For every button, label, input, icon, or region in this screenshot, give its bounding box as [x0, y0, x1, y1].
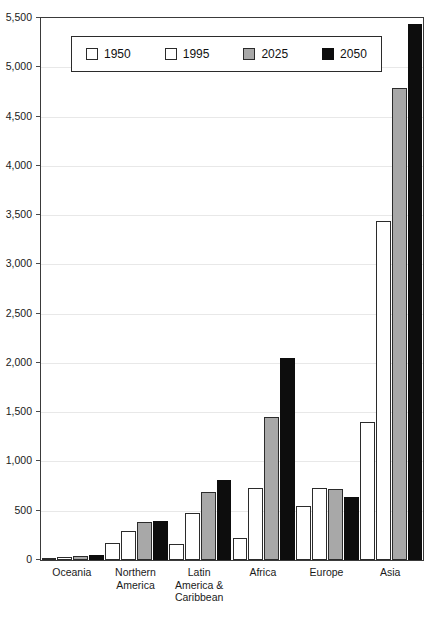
- bar-group: [296, 18, 360, 560]
- bar-group: [41, 18, 105, 560]
- x-tick-label: Asia: [358, 566, 422, 579]
- bar: [312, 488, 327, 560]
- bar: [264, 417, 279, 560]
- bar: [137, 522, 152, 560]
- y-tick-label: 5,500: [6, 12, 32, 22]
- y-axis: 5,5005,0004,5004,0003,5003,0002,5002,000…: [0, 0, 40, 623]
- bar: [89, 555, 104, 560]
- bar: [42, 558, 57, 560]
- y-tick-label: 3,500: [6, 209, 32, 219]
- legend-label: 2050: [340, 48, 367, 60]
- bars-layer: [41, 18, 423, 560]
- x-tick-label: Northern America: [104, 566, 168, 591]
- bar: [296, 506, 311, 560]
- bar: [360, 422, 375, 560]
- bar-group: [105, 18, 169, 560]
- legend-swatch-icon: [243, 48, 255, 60]
- y-tick-label: 0: [26, 554, 32, 564]
- bar-group: [168, 18, 232, 560]
- plot-area: [40, 17, 424, 561]
- bar: [344, 497, 359, 560]
- bar: [408, 24, 423, 560]
- y-tick-label: 4,000: [6, 160, 32, 170]
- legend-item: 1950: [86, 48, 131, 60]
- bar: [280, 358, 295, 560]
- x-tick-label: Latin America & Caribbean: [167, 566, 231, 604]
- legend-label: 1995: [183, 48, 210, 60]
- bar-chart: 5,5005,0004,5004,0003,5003,0002,5002,000…: [0, 0, 427, 623]
- bar: [248, 488, 263, 560]
- x-tick-label: Oceania: [40, 566, 104, 579]
- bar: [73, 556, 88, 560]
- y-tick-label: 500: [14, 505, 32, 515]
- x-tick-label: Africa: [231, 566, 295, 579]
- bar-group: [232, 18, 296, 560]
- legend-swatch-icon: [86, 48, 98, 60]
- legend-swatch-icon: [322, 48, 334, 60]
- bar-group: [359, 18, 423, 560]
- y-tick-label: 1,000: [6, 455, 32, 465]
- bar: [185, 513, 200, 560]
- y-tick-label: 5,000: [6, 61, 32, 71]
- x-tick-label: Europe: [295, 566, 359, 579]
- legend-item: 2025: [243, 48, 288, 60]
- legend-label: 1950: [104, 48, 131, 60]
- bar: [217, 480, 232, 560]
- x-axis: OceaniaNorthern AmericaLatin America & C…: [40, 566, 422, 622]
- bar: [169, 544, 184, 560]
- y-tick-label: 2,500: [6, 308, 32, 318]
- bar: [201, 492, 216, 560]
- legend-item: 1995: [165, 48, 210, 60]
- legend-label: 2025: [261, 48, 288, 60]
- legend-item: 2050: [322, 48, 367, 60]
- bar: [392, 88, 407, 560]
- bar: [153, 521, 168, 560]
- bar: [233, 538, 248, 560]
- bar: [376, 221, 391, 560]
- y-tick-label: 1,500: [6, 406, 32, 416]
- bar: [121, 531, 136, 560]
- y-tick-label: 4,500: [6, 111, 32, 121]
- legend-swatch-icon: [165, 48, 177, 60]
- bar: [105, 543, 120, 560]
- y-tick-label: 2,000: [6, 357, 32, 367]
- bar: [328, 489, 343, 560]
- bar: [57, 557, 72, 560]
- chart-legend: 1950199520252050: [71, 36, 382, 72]
- y-tick-label: 3,000: [6, 258, 32, 268]
